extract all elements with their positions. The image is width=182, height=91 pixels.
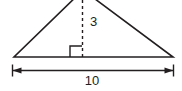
geometry-canvas: 3 10	[0, 0, 182, 91]
dimension-arrowhead-right	[165, 67, 174, 73]
right-angle-corner	[70, 46, 82, 57]
base-length-label: 10	[85, 73, 99, 88]
right-angle-marker	[70, 46, 82, 57]
geometry-figure: 3 10	[0, 0, 182, 91]
altitude-length-label: 3	[90, 14, 97, 29]
dimension-arrowhead-left	[13, 67, 22, 73]
